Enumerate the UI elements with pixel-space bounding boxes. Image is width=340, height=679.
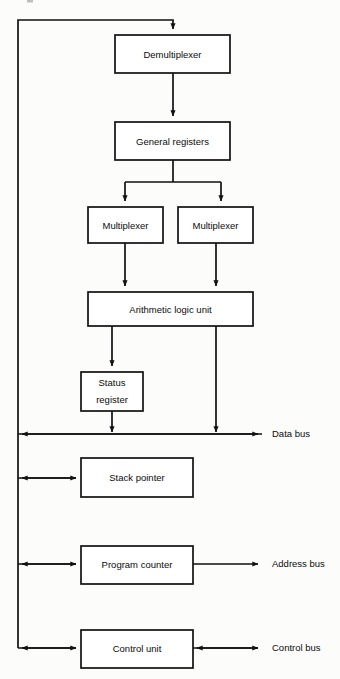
block-label-stack-pointer: Stack pointer [109,472,164,483]
block-label-general-registers: General registers [136,136,209,147]
block-control-unit[interactable]: Control unit [81,630,193,668]
block-diagram-canvas: Demultiplexer General registers Multiple… [0,0,340,679]
block-program-counter[interactable]: Program counter [81,546,193,584]
diagram-svg: Demultiplexer General registers Multiple… [0,0,340,679]
block-general-registers[interactable]: General registers [115,122,230,160]
block-label-status-register-line1: Status [99,377,126,388]
block-label-program-counter: Program counter [102,559,173,570]
block-multiplexer-left[interactable]: Multiplexer [88,207,163,243]
block-label-control-unit: Control unit [113,643,162,654]
block-arithmetic-logic-unit[interactable]: Arithmetic logic unit [88,292,253,326]
bus-label-address-bus: Address bus [272,558,325,569]
bus-label-data-bus: Data bus [272,428,310,439]
block-stack-pointer[interactable]: Stack pointer [81,458,193,497]
block-label-multiplexer-right: Multiplexer [193,220,239,231]
block-label-status-register-line2: register [96,394,128,405]
block-label-multiplexer-left: Multiplexer [103,220,149,231]
block-status-register[interactable]: Status register [81,372,143,411]
block-multiplexer-right[interactable]: Multiplexer [178,207,253,243]
bus-label-control-bus: Control bus [272,642,321,653]
block-demultiplexer[interactable]: Demultiplexer [115,35,230,73]
scan-artifact-speck [27,0,33,3]
connector-registers-to-multiplexers [125,160,221,201]
block-label-demultiplexer: Demultiplexer [143,49,201,60]
block-label-arithmetic-logic-unit: Arithmetic logic unit [129,304,212,315]
